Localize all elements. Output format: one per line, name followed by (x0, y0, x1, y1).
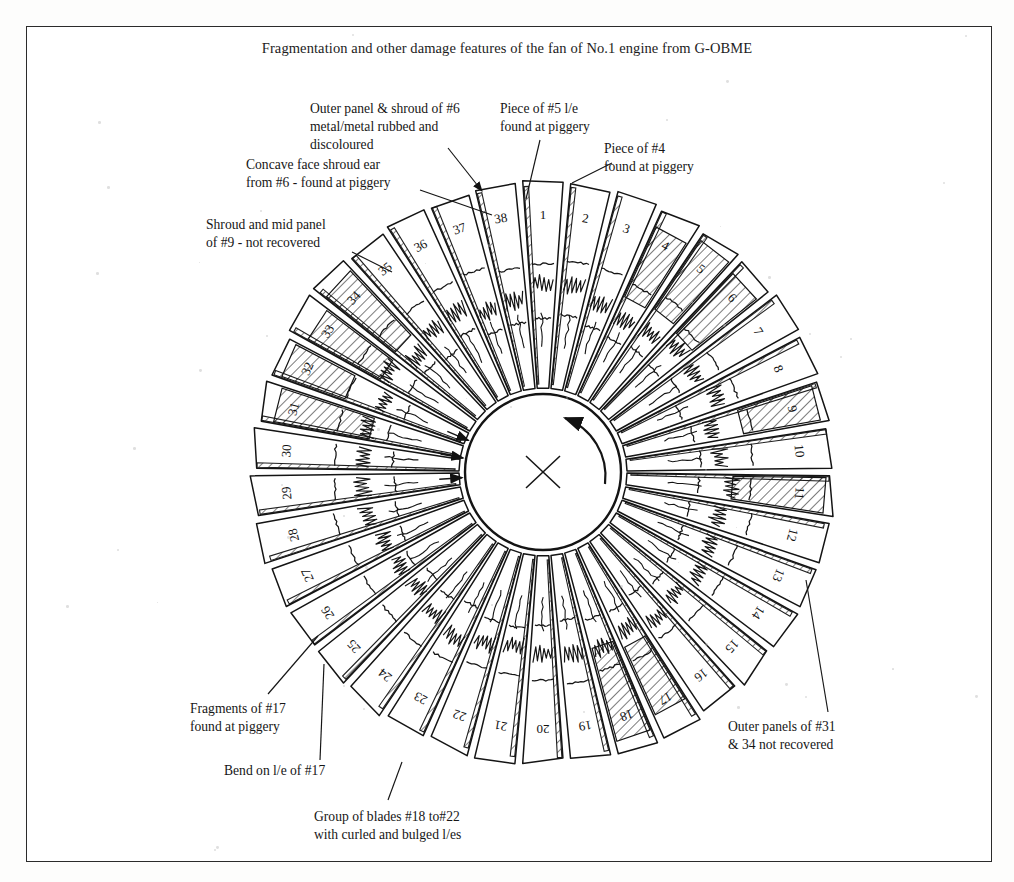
scan-speck (342, 407, 345, 410)
scan-speck (282, 240, 284, 242)
leader-line-group-of-blades-18-22 (388, 762, 402, 800)
scan-speck (157, 602, 158, 603)
scan-speck (566, 397, 568, 399)
scan-speck (287, 536, 290, 539)
scan-speck (367, 128, 370, 131)
scan-speck (107, 186, 110, 189)
blade-number-30: 30 (278, 444, 294, 458)
scan-speck (491, 604, 493, 606)
blade-number-21: 21 (493, 718, 508, 735)
scan-speck (705, 643, 708, 646)
scan-speck (768, 276, 771, 279)
scan-speck (214, 849, 216, 851)
scan-speck (133, 447, 136, 450)
blade-number-20: 20 (537, 722, 550, 737)
scan-speck (199, 369, 202, 372)
scan-speck (199, 262, 200, 263)
scan-speck (328, 106, 329, 107)
annotation-shroud-mid-panel-9: Shroud and mid panel of #9 - not recover… (206, 216, 326, 252)
scan-speck (785, 683, 788, 686)
scan-speck (98, 121, 101, 124)
blade-number-38: 38 (493, 210, 508, 227)
blade-number-10: 10 (792, 444, 808, 458)
scan-speck (892, 668, 894, 670)
annotation-piece-of-4: Piece of #4 found at piggery (604, 140, 694, 176)
fan-disc-drawing: 1234567891011121314151617181920212223242… (26, 26, 992, 862)
leader-line-bend-on-le-of-17 (320, 664, 324, 760)
scan-speck (850, 338, 852, 340)
scan-speck (583, 711, 585, 713)
scan-speck (620, 585, 623, 588)
page-canvas: Fragmentation and other damage features … (0, 0, 1014, 882)
annotation-bend-on-le-of-17: Bend on l/e of #17 (224, 762, 325, 780)
scan-speck (266, 335, 268, 337)
leader-line-outer-panels-31-34 (806, 580, 828, 712)
scan-speck (975, 695, 978, 698)
scan-speck (577, 353, 579, 355)
scan-speck (216, 846, 219, 849)
annotation-concave-face-shroud-ear-6: Concave face shroud ear from #6 - found … (246, 156, 391, 192)
scan-speck (365, 566, 368, 569)
scan-speck (377, 428, 380, 431)
scan-speck (691, 301, 693, 303)
annotation-outer-panel-shroud-6: Outer panel & shroud of #6 metal/metal r… (310, 100, 460, 154)
blade-number-19: 19 (578, 718, 593, 735)
leader-line-outer-panel-shroud-6 (448, 148, 482, 191)
scan-speck (737, 706, 740, 709)
annotation-fragments-of-17: Fragments of #17 found at piggery (190, 700, 286, 736)
scan-speck (488, 244, 491, 247)
scan-speck (96, 272, 99, 275)
annotation-outer-panels-31-34: Outer panels of #31 & 34 not recovered (728, 718, 836, 754)
scan-speck (666, 119, 668, 121)
leader-line-fragments-of-17 (268, 636, 318, 694)
blade-number-1: 1 (540, 207, 547, 222)
scan-speck (723, 324, 726, 327)
scan-speck (260, 210, 262, 212)
annotation-group-of-blades-18-22: Group of blades #18 to#22 with curled an… (314, 808, 461, 844)
blade-number-11: 11 (792, 486, 808, 500)
annotation-piece-of-5-le: Piece of #5 l/e found at piggery (500, 100, 590, 136)
scan-speck (720, 226, 721, 227)
blade-number-29: 29 (278, 486, 294, 500)
scan-speck (66, 605, 69, 608)
scan-speck (117, 549, 119, 551)
scan-speck (726, 80, 729, 83)
scan-speck (965, 35, 967, 37)
